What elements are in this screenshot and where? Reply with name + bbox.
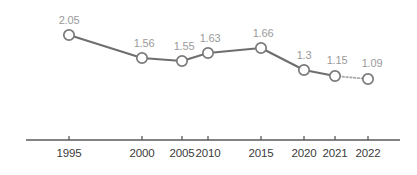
x-axis-tick-label: 2005 bbox=[169, 147, 194, 159]
data-point-marker bbox=[299, 65, 309, 75]
x-axis: 19952000200520102015202020212022 bbox=[26, 136, 400, 159]
data-point-marker bbox=[203, 48, 213, 58]
x-axis-tick-label: 2022 bbox=[355, 147, 380, 159]
data-value-label: 1.55 bbox=[174, 40, 195, 52]
x-axis-tick-labels: 19952000200520102015202020212022 bbox=[56, 147, 380, 159]
data-value-label: 1.15 bbox=[327, 54, 348, 66]
data-point-marker bbox=[137, 53, 147, 63]
data-value-label: 2.05 bbox=[59, 14, 80, 26]
data-value-labels: 2.051.561.551.631.661.31.151.09 bbox=[59, 14, 383, 69]
data-value-label: 1.63 bbox=[200, 32, 221, 44]
x-axis-tick-label: 1995 bbox=[56, 147, 81, 159]
data-value-label: 1.3 bbox=[297, 49, 312, 61]
data-value-label: 1.66 bbox=[253, 27, 274, 39]
data-point-marker bbox=[177, 56, 187, 66]
data-point-marker bbox=[330, 71, 340, 81]
x-axis-tick-label: 2000 bbox=[129, 147, 154, 159]
x-axis-tick-label: 2021 bbox=[322, 147, 347, 159]
x-axis-tick-label: 2010 bbox=[195, 147, 220, 159]
chart-canvas: 2.051.561.551.631.661.31.151.09 19952000… bbox=[0, 0, 417, 175]
data-point-marker bbox=[256, 43, 266, 53]
x-axis-tick-label: 2015 bbox=[248, 147, 273, 159]
line-chart: 2.051.561.551.631.661.31.151.09 19952000… bbox=[0, 0, 417, 175]
data-point-marker bbox=[64, 30, 74, 40]
data-point-marker bbox=[363, 74, 373, 84]
x-axis-tick-label: 2020 bbox=[291, 147, 316, 159]
data-value-label: 1.09 bbox=[362, 57, 383, 69]
data-value-label: 1.56 bbox=[134, 37, 155, 49]
